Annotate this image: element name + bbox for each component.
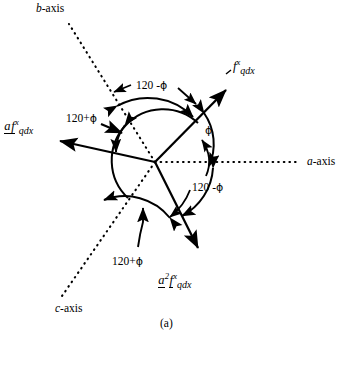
leader-120-minus-phi-top	[114, 85, 131, 92]
annotation-phi: ϕ	[205, 125, 212, 136]
vector-a-f-qdx	[60, 141, 155, 162]
phasor-diagram-canvas	[0, 0, 349, 366]
vector-sub-qdx-3: qdx	[177, 279, 191, 290]
vector-prefix-a: a	[4, 121, 11, 134]
vector-prefix-a-2: a	[158, 275, 165, 288]
axis-suffix-b: -axis	[42, 2, 64, 14]
axis-suffix-a: -axis	[313, 155, 335, 167]
figure-caption: (a)	[160, 318, 173, 330]
annotation-120-plus-phi-bottom: 120+ϕ	[112, 256, 143, 268]
vector-sub-qdx: qdx	[240, 65, 254, 76]
leader-120-minus-phi-top-right	[178, 88, 196, 104]
vector-a2-f-qdx	[155, 162, 198, 248]
leader-120-plus-phi-left	[101, 124, 122, 133]
annotation-phi-4: ϕ	[136, 255, 143, 268]
arc-120-plus-phi-bottom	[104, 196, 170, 218]
annotation-num-2: 120+	[66, 112, 90, 124]
annotation-120-plus-phi-left: 120+ϕ	[66, 113, 97, 125]
vector-label-a2-f-qdx: a2fxqdx	[158, 272, 191, 290]
arc-origin-sweep	[112, 109, 198, 198]
leader-120-plus-phi-bottom	[138, 208, 143, 247]
axis-line-b	[69, 24, 155, 162]
annotation-num-4: 120+	[112, 255, 136, 267]
vector-label-a-f-qdx: afxqdx	[4, 118, 33, 136]
annotation-120-minus-phi-top: 120 -ϕ	[136, 80, 167, 92]
annotation-num-1: 120 -	[136, 79, 160, 91]
axis-label-a: a-axis	[307, 156, 335, 168]
annotation-num-3: 120 -	[192, 181, 216, 193]
axis-label-b: b-axis	[36, 3, 64, 15]
leader-120-minus-phi-right	[202, 140, 209, 176]
leader-f-label	[226, 70, 231, 74]
vector-sub-qdx-2: qdx	[19, 125, 33, 136]
annotation-phi-2: ϕ	[90, 112, 97, 125]
annotation-phi-1: ϕ	[160, 79, 167, 92]
axis-label-c: c-axis	[55, 303, 82, 315]
axis-suffix-c: -axis	[60, 302, 82, 314]
vector-label-f-qdx: fxqdx	[233, 58, 255, 76]
annotation-phi-3: ϕ	[216, 181, 223, 194]
arc-120-minus-phi-top	[117, 98, 193, 117]
annotation-120-minus-phi-right: 120 -ϕ	[192, 182, 223, 194]
